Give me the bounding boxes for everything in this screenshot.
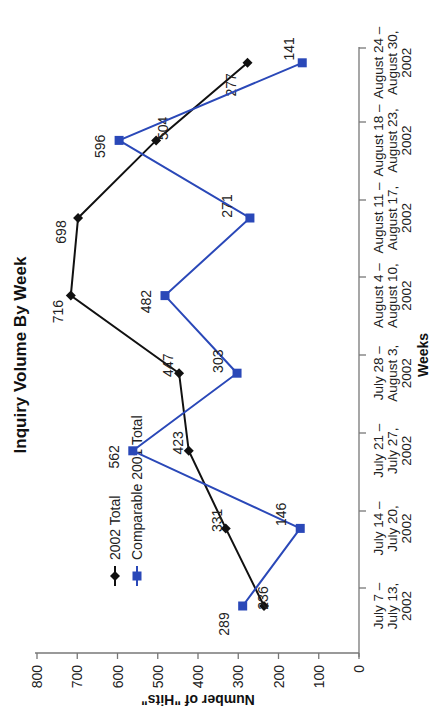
rotated-chart-stage: Inquiry Volume By Week 2002 TotalCompara… xyxy=(0,0,439,709)
legend-diamond-icon xyxy=(110,571,120,581)
data-label: 596 xyxy=(92,135,108,159)
square-marker xyxy=(298,58,307,67)
x-axis-title: Weeks xyxy=(415,333,431,377)
y-tick-label: 400 xyxy=(190,665,206,689)
chart-title: Inquiry Volume By Week xyxy=(11,256,30,453)
series-2002-total: 236331423447716698504277 xyxy=(50,58,271,611)
data-label: 716 xyxy=(50,300,66,324)
y-tick-label: 0 xyxy=(351,665,367,673)
x-axis: July 7 –July 13,2002July 14 –July 20,200… xyxy=(359,26,414,657)
y-axis: 0100200300400500600700800 xyxy=(29,653,367,688)
x-category-label-line: August 24 – xyxy=(371,26,386,99)
x-category-label-line: 2002 xyxy=(399,591,414,621)
x-category-label-line: 2002 xyxy=(399,125,414,155)
x-category-label-line: 2002 xyxy=(399,358,414,388)
y-tick-label: 300 xyxy=(230,665,246,689)
legend-label: 2002 Total xyxy=(107,496,123,560)
x-category-label: July 14 –July 20,2002 xyxy=(371,501,414,556)
x-category-label-line: July 28 – xyxy=(371,346,386,401)
data-label: 698 xyxy=(53,220,69,244)
series-comparable-2001-total: 289146562303482271596141 xyxy=(92,37,307,636)
x-category-label: August 11 –August 17,2002 xyxy=(371,182,414,254)
x-category-label-line: July 27, xyxy=(385,428,400,475)
x-category-label: August 4 –August 10,2002 xyxy=(371,263,414,328)
x-category-label-line: July 14 – xyxy=(371,501,386,556)
x-category-label: July 7 –July 13,2002 xyxy=(371,582,414,629)
data-label: 289 xyxy=(216,612,232,636)
y-tick-label: 500 xyxy=(150,665,166,689)
x-category-label-line: August 18 – xyxy=(371,104,386,177)
data-label: 141 xyxy=(281,37,297,61)
data-label: 423 xyxy=(170,431,186,455)
y-tick-label: 100 xyxy=(311,665,327,689)
x-category-label-line: August 3, xyxy=(385,345,400,402)
square-marker xyxy=(245,214,254,223)
square-marker xyxy=(115,136,124,145)
square-marker xyxy=(128,446,137,455)
x-category-label-line: August 30, xyxy=(385,31,400,96)
series-layer: 2363314234477166985042772891465623034822… xyxy=(50,37,307,636)
x-category-label-line: August 11 – xyxy=(371,182,386,254)
y-tick-label: 700 xyxy=(69,665,85,689)
x-category-label-line: August 4 – xyxy=(371,263,386,328)
square-marker xyxy=(160,291,169,300)
line-chart: Inquiry Volume By Week 2002 TotalCompara… xyxy=(0,0,439,709)
x-category-label-line: July 20, xyxy=(385,505,400,552)
legend: 2002 TotalComparable 2001 Total xyxy=(107,415,145,586)
legend-item-2002-total: 2002 Total xyxy=(107,496,123,586)
y-tick-label: 200 xyxy=(271,665,287,689)
x-category-label-line: 2002 xyxy=(399,48,414,78)
data-label: 146 xyxy=(273,503,289,527)
x-category-label-line: July 13, xyxy=(385,583,400,630)
x-category-label-line: 2002 xyxy=(399,513,414,543)
x-category-label: August 24 –August 30,2002 xyxy=(371,26,414,99)
x-category-label: July 21 –July 27,2002 xyxy=(371,423,414,478)
data-label: 271 xyxy=(219,194,235,218)
x-category-label-line: 2002 xyxy=(399,281,414,311)
legend-item-comparable-2001-total: Comparable 2001 Total xyxy=(129,415,145,586)
data-label: 482 xyxy=(138,290,154,314)
data-label: 447 xyxy=(160,353,176,377)
square-marker xyxy=(233,369,242,378)
y-tick-label: 600 xyxy=(110,665,126,689)
x-category-label: August 18 –August 23,2002 xyxy=(371,104,414,177)
x-category-label-line: 2002 xyxy=(399,436,414,466)
x-category-label-line: 2002 xyxy=(399,203,414,233)
square-marker xyxy=(296,524,305,533)
x-category-label-line: August 23, xyxy=(385,108,400,173)
data-label: 331 xyxy=(209,509,225,533)
legend-label: Comparable 2001 Total xyxy=(129,415,145,560)
chart-title-text: Inquiry Volume By Week xyxy=(11,256,30,453)
data-label: 236 xyxy=(255,586,271,610)
x-category-label-line: August 17, xyxy=(385,186,400,251)
legend-square-icon xyxy=(133,572,142,581)
x-category-label-line: July 21 – xyxy=(371,423,386,478)
x-category-label: July 28 –August 3,2002 xyxy=(371,345,414,402)
square-marker xyxy=(238,602,247,611)
x-category-label-line: July 7 – xyxy=(371,582,386,629)
x-category-label-line: August 10, xyxy=(385,263,400,328)
data-label: 562 xyxy=(106,445,122,469)
data-label: 303 xyxy=(210,349,226,373)
y-axis-title: Number of "Hits" xyxy=(141,692,255,708)
y-tick-label: 800 xyxy=(29,665,45,689)
